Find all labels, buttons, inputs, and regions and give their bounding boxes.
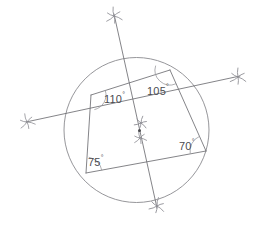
star-marker-left-spoke	[27, 122, 29, 129]
chord-intersection-point	[138, 129, 141, 132]
angle-label-75: 75°	[88, 154, 104, 169]
star-marker-center-lower-spoke	[135, 138, 140, 143]
angle-label-105-degree-symbol: °	[166, 83, 169, 90]
star-marker-layer	[20, 6, 248, 215]
angle-label-105-value: 105	[147, 85, 166, 97]
angle-label-70: 70°	[179, 138, 195, 153]
angle-label-110-degree-symbol: °	[122, 91, 125, 98]
angle-label-75-degree-symbol: °	[101, 154, 104, 161]
star-marker-center-upper	[134, 114, 151, 131]
vertex-dot-layer	[138, 129, 141, 132]
star-marker-right	[229, 67, 248, 86]
angle-label-75-value: 75	[88, 156, 101, 168]
transversal-vertical	[114, 14, 157, 208]
circle-layer	[64, 58, 209, 203]
angle-label-70-value: 70	[179, 140, 192, 152]
star-marker-left-spoke	[25, 114, 27, 122]
angle-arc-layer	[89, 66, 200, 171]
star-marker-left-spoke	[21, 122, 27, 128]
star-marker-bottom-spoke	[149, 203, 157, 211]
angle-label-110: 110°	[104, 91, 125, 106]
star-marker-center-upper-spoke	[141, 120, 146, 125]
geometry-diagram-canvas: 110°105°70°75°	[0, 0, 265, 225]
geometry-figure: 110°105°70°75°	[0, 0, 265, 225]
side-right	[170, 70, 206, 151]
star-marker-bottom	[148, 196, 168, 216]
angle-label-70-degree-symbol: °	[192, 138, 195, 145]
angle-label-105: 105°	[147, 83, 169, 98]
angle-label-layer: 110°105°70°75°	[88, 83, 195, 169]
circumscribed-circle	[64, 58, 209, 203]
transversal-layer	[26, 14, 240, 208]
star-marker-left	[20, 114, 35, 129]
angle-label-110-value: 110	[104, 93, 122, 105]
star-marker-bottom-spoke	[157, 202, 163, 208]
star-marker-top	[106, 6, 124, 24]
side-bottom	[86, 151, 206, 173]
